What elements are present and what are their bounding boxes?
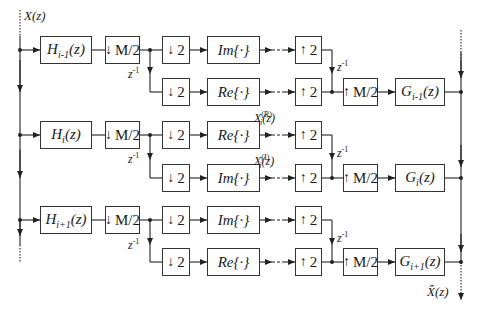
real-part-operator: Re{·} <box>207 248 260 276</box>
interpolator-m-half: ↑M/2 <box>343 248 378 276</box>
real-part-operator: Re{·} <box>207 78 260 106</box>
downsample-by-2-upper: ↓2 <box>162 206 190 234</box>
imag-part-operator: Im{·} <box>207 164 260 192</box>
decimator-m-half: ↓M/2 <box>105 36 140 64</box>
upsample-by-2-upper: ↑2 <box>295 36 322 64</box>
downsample-by-2-lower: ↓2 <box>162 164 190 192</box>
delay-label: z-1 <box>128 151 139 167</box>
interpolator-m-half: ↑M/2 <box>343 78 378 106</box>
output-signal-label: X̂(z) <box>427 284 449 300</box>
upsample-by-2-lower: ↑2 <box>295 248 322 276</box>
delay-label: z-1 <box>337 230 348 246</box>
down-arrow-icon: ↓ <box>167 42 174 58</box>
upsample-by-2-upper: ↑2 <box>295 206 322 234</box>
up-arrow-icon: ↑ <box>343 84 350 100</box>
filter-bank-diagram: X(z) X̂(z) Hi-1(z) ↓M/2 ↓2 ↓2 Im{·} Re{·… <box>0 0 480 318</box>
downsample-by-2-lower: ↓2 <box>162 248 190 276</box>
synthesis-filter-g-i: Gi(z) <box>395 164 445 192</box>
real-part-operator: Re{·} <box>207 121 260 149</box>
downsample-by-2-lower: ↓2 <box>162 78 190 106</box>
down-arrow-icon: ↓ <box>167 84 174 100</box>
up-arrow-icon: ↑ <box>300 84 307 100</box>
up-arrow-icon: ↑ <box>343 170 350 186</box>
delay-label: z-1 <box>337 59 348 75</box>
decimator-m-half: ↓M/2 <box>105 206 140 234</box>
down-arrow-icon: ↓ <box>105 212 112 228</box>
up-arrow-icon: ↑ <box>300 212 307 228</box>
synthesis-filter-g-i-minus-1: Gi-1(z) <box>395 78 445 106</box>
up-arrow-icon: ↑ <box>300 42 307 58</box>
imag-part-operator: Im{·} <box>207 206 260 234</box>
upsample-by-2-upper: ↑2 <box>295 121 322 149</box>
delay-label: z-1 <box>128 66 139 82</box>
synthesis-filter-g-i-plus-1: Gi+1(z) <box>395 248 445 276</box>
analysis-filter-h-i-minus-1: Hi-1(z) <box>40 36 92 64</box>
input-signal-label: X(z) <box>24 8 46 24</box>
down-arrow-icon: ↓ <box>167 254 174 270</box>
down-arrow-icon: ↓ <box>167 127 174 143</box>
upsample-by-2-lower: ↑2 <box>295 164 322 192</box>
down-arrow-icon: ↓ <box>167 170 174 186</box>
analysis-filter-h-i-plus-1: Hi+1(z) <box>40 206 92 234</box>
downsample-by-2-upper: ↓2 <box>162 121 190 149</box>
downsample-by-2-upper: ↓2 <box>162 36 190 64</box>
down-arrow-icon: ↓ <box>167 212 174 228</box>
up-arrow-icon: ↑ <box>300 170 307 186</box>
delay-label: z-1 <box>128 237 139 253</box>
down-arrow-icon: ↓ <box>105 127 112 143</box>
imag-part-operator: Im{·} <box>207 36 260 64</box>
interpolator-m-half: ↑M/2 <box>343 164 378 192</box>
down-arrow-icon: ↓ <box>105 42 112 58</box>
up-arrow-icon: ↑ <box>343 254 350 270</box>
up-arrow-icon: ↑ <box>300 254 307 270</box>
signal-label-real-part: X(R)i(z) <box>254 110 275 127</box>
signal-label-imag-part: X(I)i(z) <box>254 153 274 170</box>
delay-label: z-1 <box>337 145 348 161</box>
up-arrow-icon: ↑ <box>300 127 307 143</box>
analysis-filter-h-i: Hi(z) <box>40 121 92 149</box>
upsample-by-2-lower: ↑2 <box>295 78 322 106</box>
decimator-m-half: ↓M/2 <box>105 121 140 149</box>
